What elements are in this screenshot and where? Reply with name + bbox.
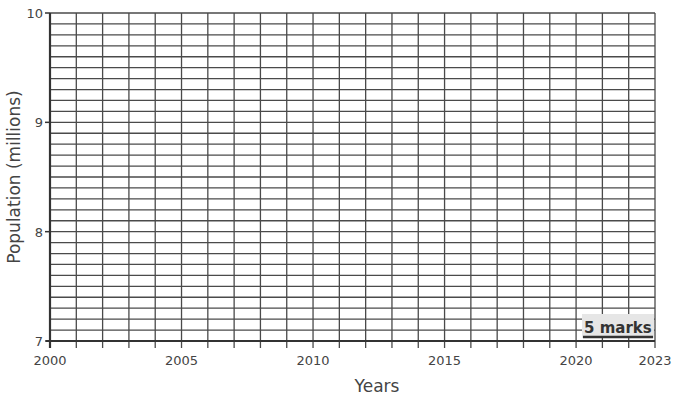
y-tick-label: 9 xyxy=(35,115,43,130)
population-chart: 78910200020052010201520202023 Years Popu… xyxy=(0,0,679,401)
y-axis-title: Population (millions) xyxy=(4,90,24,263)
marks-label: 5 marks xyxy=(584,319,652,337)
y-tick-label: 10 xyxy=(26,6,43,21)
y-tick-label: 8 xyxy=(35,225,43,240)
x-tick-label: 2005 xyxy=(165,353,198,368)
marks-badge: 5 marks xyxy=(582,314,654,338)
x-tick-label: 2023 xyxy=(638,353,671,368)
grid xyxy=(50,13,655,341)
x-tick-label: 2010 xyxy=(296,353,329,368)
tick-labels: 78910200020052010201520202023 xyxy=(26,6,671,368)
x-axis-title: Years xyxy=(354,376,400,396)
x-tick-label: 2020 xyxy=(560,353,593,368)
x-tick-label: 2000 xyxy=(33,353,66,368)
x-tick-label: 2015 xyxy=(428,353,461,368)
y-tick-label: 7 xyxy=(35,334,43,349)
